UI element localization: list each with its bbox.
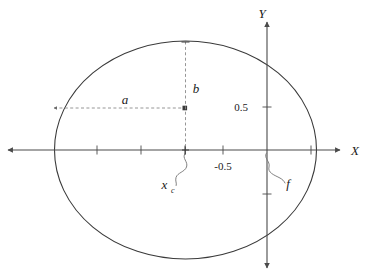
f-squiggle-brace [266, 153, 285, 183]
x-tick-label-neg-0-5: -0.5 [214, 160, 232, 172]
center-offset-label-main: x [160, 177, 167, 192]
semi-major-axis-label: a [122, 92, 129, 107]
semi-minor-axis-annotation [182, 42, 190, 151]
focal-distance-label: f [286, 176, 292, 191]
ellipse-geometry-figure: Y X 0.5 -0.5 a b x c f [0, 0, 377, 277]
xc-squiggle-brace [176, 154, 187, 186]
y-tick-label-0-5: 0.5 [234, 101, 248, 113]
x-axis-group [8, 146, 340, 155]
center-offset-label: x c [160, 177, 175, 195]
f-leader-group [266, 153, 285, 183]
xc-leader-group [176, 147, 187, 186]
center-offset-label-subscript: c [171, 186, 175, 195]
y-axis-group [263, 22, 272, 268]
x-axis-label: X [350, 143, 360, 158]
figure-canvas: Y X 0.5 -0.5 a b x c f [0, 0, 377, 277]
y-axis-label: Y [258, 6, 267, 21]
semi-major-endpoint-marker [183, 106, 188, 111]
semi-minor-axis-label: b [193, 81, 200, 96]
semi-major-axis-annotation [54, 106, 187, 111]
